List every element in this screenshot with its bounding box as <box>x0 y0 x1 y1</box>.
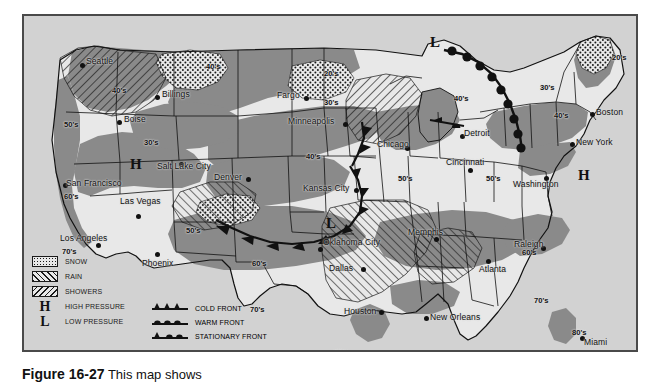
city-dot <box>136 214 141 219</box>
stationary-front-icon <box>152 331 188 342</box>
legend-row-cold-front: COLD FRONT <box>152 301 267 315</box>
city-dot <box>580 336 585 341</box>
legend-label-rain: RAIN <box>65 273 82 280</box>
city-dot <box>354 188 359 193</box>
showers-swatch-icon <box>32 286 58 297</box>
legend-row-rain: RAIN <box>32 269 312 284</box>
cold-front-icon <box>152 303 188 314</box>
city-dot <box>304 96 309 101</box>
city-dot <box>486 259 491 264</box>
city-dot <box>460 134 465 139</box>
figure-caption-text: This map shows <box>108 367 202 382</box>
legend-label-cold-front: COLD FRONT <box>195 305 242 312</box>
figure-container: Seattle Billings Fargo Boise Minneapolis… <box>0 0 660 386</box>
city-dot <box>379 310 384 315</box>
map-legend-fronts: COLD FRONT WARM FRONT <box>152 301 267 343</box>
legend-row-stationary-front: STATIONARY FRONT <box>152 329 267 343</box>
city-dot <box>80 63 85 68</box>
city-dot <box>424 316 429 321</box>
legend-row-showers: SHOWERS <box>32 284 312 299</box>
warm-front-icon <box>152 317 188 328</box>
city-dot <box>405 146 410 151</box>
city-dot <box>434 237 439 242</box>
city-dot <box>96 243 101 248</box>
high-pressure-icon: H <box>32 300 58 313</box>
legend-label-showers: SHOWERS <box>65 288 102 295</box>
legend-label-warm-front: WARM FRONT <box>195 319 244 326</box>
city-dot <box>246 177 251 182</box>
figure-caption: Figure 16-27 This map shows <box>22 366 202 382</box>
city-dot <box>468 168 473 173</box>
legend-label-snow: SNOW <box>65 258 87 265</box>
snow-swatch-icon <box>32 256 58 267</box>
city-dot <box>590 112 595 117</box>
city-dot <box>343 122 348 127</box>
city-dot <box>155 95 160 100</box>
legend-label-stationary-front: STATIONARY FRONT <box>195 333 267 340</box>
legend-label-high-pressure: HIGH PRESSURE <box>65 303 125 310</box>
city-dot <box>544 176 549 181</box>
city-dot <box>117 120 122 125</box>
weather-map: Seattle Billings Fargo Boise Minneapolis… <box>22 14 638 352</box>
legend-row-snow: SNOW <box>32 254 312 269</box>
city-dot <box>318 247 323 252</box>
figure-number: Figure 16-27 <box>22 366 104 382</box>
low-pressure-icon: L <box>32 315 58 328</box>
legend-row-warm-front: WARM FRONT <box>152 315 267 329</box>
city-dot <box>179 162 184 167</box>
rain-swatch-icon <box>32 271 58 282</box>
city-dot <box>570 142 575 147</box>
legend-label-low-pressure: LOW PRESSURE <box>65 318 123 325</box>
city-dot <box>541 246 546 251</box>
city-dot <box>361 267 366 272</box>
city-dot <box>63 183 68 188</box>
